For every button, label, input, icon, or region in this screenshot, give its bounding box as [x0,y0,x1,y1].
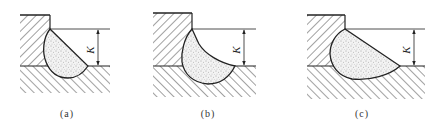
k-label: K [84,46,96,55]
panel-b: K [153,13,256,97]
panel-c: K [307,15,425,99]
caption-c: (c) [355,108,369,119]
caption-a: (a) [60,108,74,119]
panel-a: K [20,15,110,93]
k-label: K [400,46,412,55]
weld-bead [182,29,235,84]
caption-b: (b) [201,108,216,119]
weld-bead [44,29,88,78]
weld-bead [330,29,400,79]
k-label: K [230,46,242,55]
